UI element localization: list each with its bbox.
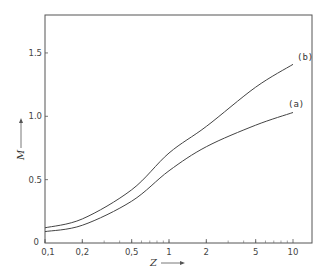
- svg-text:Z: Z: [149, 257, 158, 268]
- x-tick-label: 2: [204, 247, 209, 257]
- plot-frame: [45, 15, 312, 243]
- x-axis-ticks: 0,10,20,512510: [41, 239, 298, 257]
- x-tick-label: 0,1: [41, 247, 55, 257]
- x-tick-label: 10: [288, 247, 299, 257]
- y-tick-label: 1.0: [28, 111, 42, 121]
- svg-text:M: M: [15, 149, 26, 161]
- y-tick-label: 0.5: [28, 175, 42, 185]
- x-axis-title: Z: [149, 257, 185, 268]
- series-line-a: [45, 112, 293, 231]
- chart: 0,10,20,512510 00.51.01.5 (b) (a) M Z: [0, 0, 329, 278]
- arrow-up-icon: [19, 118, 23, 123]
- series-line-b: [45, 64, 293, 227]
- x-tick-label: 0,5: [125, 247, 139, 257]
- y-tick-label: 1.5: [28, 48, 42, 58]
- series-label-a: (a): [288, 99, 304, 109]
- x-tick-label: 0,2: [76, 247, 90, 257]
- x-tick-label: 1: [166, 247, 171, 257]
- series-lines: [45, 64, 293, 231]
- series-label-b: (b): [297, 52, 313, 62]
- y-axis-title: M: [15, 118, 26, 161]
- arrow-right-icon: [180, 261, 185, 265]
- y-tick-label: 0: [34, 237, 39, 247]
- x-tick-label: 5: [253, 247, 258, 257]
